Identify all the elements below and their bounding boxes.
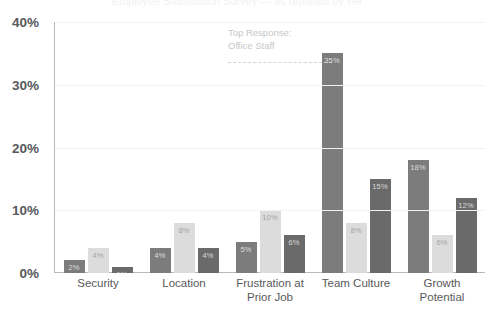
bar[interactable]: 1% — [112, 267, 133, 273]
x-axis-label-frustration-at-prior-job: Frustration atPrior Job — [227, 277, 313, 304]
bar-value-label: 6% — [284, 238, 305, 247]
x-axis-label-line: Prior Job — [227, 291, 313, 305]
bar[interactable]: 2% — [64, 260, 85, 273]
bar-chart: Employee Satisfaction Survey — as report… — [0, 0, 491, 317]
bar[interactable]: 8% — [174, 223, 195, 273]
bar[interactable]: 12% — [456, 198, 477, 273]
x-axis-label-location: Location — [141, 277, 227, 304]
y-axis-tick-10: 10% — [12, 203, 39, 218]
cropped-title-strip: Employee Satisfaction Survey — as report… — [0, 0, 491, 9]
annotation-line-2: Office Staff — [228, 40, 291, 53]
x-axis-label-line: Potential — [399, 291, 485, 305]
gridline-30 — [55, 85, 485, 86]
bar-value-label: 6% — [432, 238, 453, 247]
bar-value-label: 5% — [236, 245, 257, 254]
bar-value-label: 4% — [150, 251, 171, 260]
x-axis-label-line: Security — [55, 277, 141, 291]
x-axis-label-line: Team Culture — [313, 277, 399, 291]
bar[interactable]: 4% — [150, 248, 171, 273]
x-axis-labels: SecurityLocationFrustration atPrior JobT… — [55, 277, 485, 304]
x-axis-label-line: Location — [141, 277, 227, 291]
bar[interactable]: 10% — [260, 210, 281, 273]
bar[interactable]: 18% — [408, 160, 429, 273]
bar[interactable]: 5% — [236, 242, 257, 273]
bar-value-label: 4% — [88, 251, 109, 260]
annotation-leader-line — [228, 62, 332, 63]
x-axis-label-security: Security — [55, 277, 141, 304]
y-axis-tick-0: 0% — [19, 266, 39, 281]
gridline-20 — [55, 148, 485, 149]
bar[interactable]: 8% — [346, 223, 367, 273]
plot-area: 2%4%1%4%8%4%5%10%6%35%8%15%18%6%12% — [55, 22, 485, 273]
top-response-annotation: Top Response: Office Staff — [228, 27, 291, 52]
x-axis-label-growth-potential: GrowthPotential — [399, 277, 485, 304]
bar-value-label: 10% — [260, 213, 281, 222]
bar-value-label: 2% — [64, 263, 85, 272]
y-axis-tick-30: 30% — [12, 77, 39, 92]
bar[interactable]: 4% — [88, 248, 109, 273]
x-axis-label-line: Growth — [399, 277, 485, 291]
bar[interactable]: 4% — [198, 248, 219, 273]
bar-value-label: 8% — [174, 226, 195, 235]
bar[interactable]: 15% — [370, 179, 391, 273]
y-axis: 40%30%20%10%0% — [0, 0, 46, 317]
x-axis-label-line: Frustration at — [227, 277, 313, 291]
bar[interactable]: 6% — [432, 235, 453, 273]
bar-value-label: 15% — [370, 182, 391, 191]
bar-value-label: 18% — [408, 163, 429, 172]
gridline-40 — [55, 22, 485, 23]
gridline-10 — [55, 210, 485, 211]
bar[interactable]: 35% — [322, 53, 343, 273]
x-axis-label-team-culture: Team Culture — [313, 277, 399, 304]
y-axis-tick-20: 20% — [12, 140, 39, 155]
chart-title: Employee Satisfaction Survey — as report… — [112, 0, 363, 7]
bar-value-label: 8% — [346, 226, 367, 235]
annotation-line-1: Top Response: — [228, 27, 291, 40]
y-axis-tick-40: 40% — [12, 15, 39, 30]
bar[interactable]: 6% — [284, 235, 305, 273]
bar-value-label: 12% — [456, 201, 477, 210]
bar-value-label: 4% — [198, 251, 219, 260]
bar-value-label: 35% — [322, 56, 343, 65]
